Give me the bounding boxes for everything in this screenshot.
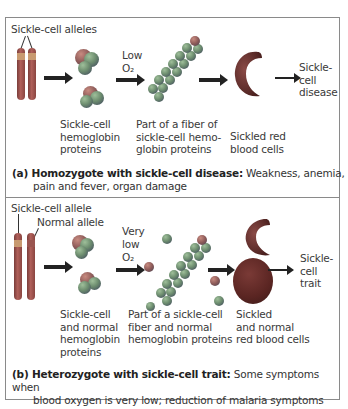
low-label: low [122,238,139,251]
outcome-label: Sickle- cell disease [299,61,337,99]
panel-a-caption: (a) Homozygote with sickle-cell disease:… [12,167,345,193]
o2-label: O₂ [122,251,134,264]
sickle-allele-band [14,240,22,247]
sickle-cell-alleles-label: Sickle-cell alleles [11,23,97,36]
arrow-icon [44,265,66,269]
normal-allele-label: Normal allele [37,216,104,229]
sickle-allele-band [28,53,36,60]
arrow-icon [116,78,138,82]
arrow-icon [44,76,66,80]
low-label: Low [122,49,142,62]
normal-red-blood-cell-icon [233,258,273,304]
arrow-icon [199,78,221,82]
panel-divider [5,197,340,198]
chromosome-icon [27,233,35,300]
sickled-cell-icon [240,217,276,257]
panel-b-caption: (b) Heterozygote with sickle-cell trait:… [12,368,348,407]
fiber-caption: Part of a sickle-cell fiber and normal h… [128,308,232,346]
proteins-caption: Sickle-cell and normal hemoglobin protei… [60,308,120,358]
chromosome-icon [17,48,25,100]
fiber-caption: Part of a fiber of sickle-cell hemo- glo… [136,118,221,156]
arrow-icon [268,269,288,271]
proteins-caption: Sickle-cell hemoglobin proteins [60,118,120,156]
arrow-icon [208,268,228,272]
sickled-cell-icon [230,48,266,100]
outcome-label: Sickle- cell trait [300,252,333,290]
o2-label: O₂ [122,62,134,75]
sickled-normal-cells-caption: Sickled and normal red blood cells [236,308,310,346]
arrow-icon [275,77,295,79]
very-label: Very [122,225,145,238]
sickle-allele-band [17,53,25,60]
sickle-cell-allele-label: Sickle-cell allele [11,202,92,215]
arrow-icon [116,268,138,272]
normal-allele-band [27,240,35,247]
chromosome-icon [28,48,36,100]
sickled-cells-caption: Sickled red blood cells [230,130,286,155]
chromosome-icon [14,233,22,300]
sickle-fiber-icon [148,36,208,106]
